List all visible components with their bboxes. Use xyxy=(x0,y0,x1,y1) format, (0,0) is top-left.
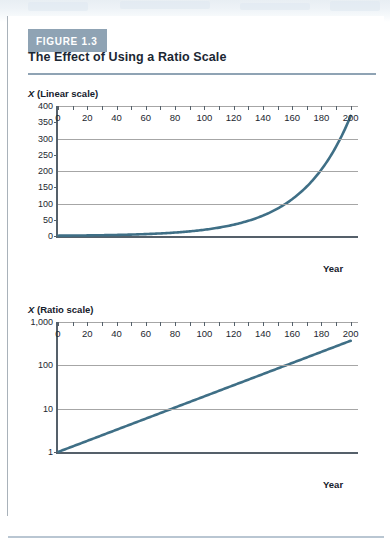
chart-ratio-x-tick xyxy=(73,322,74,326)
chart-linear-x-tick xyxy=(351,106,352,110)
chart-linear-x-tick xyxy=(248,106,249,110)
chart-ratio-x-tick xyxy=(307,322,308,326)
chart-ratio-x-tick xyxy=(321,322,322,326)
chart-ratio-x-axis-title: Year xyxy=(323,479,343,490)
chart-ratio-gridline xyxy=(58,409,358,410)
chart-linear-plot-area: 0501001502002503003504000204060801001201… xyxy=(56,106,358,238)
chart-linear-x-tick xyxy=(58,106,59,110)
chart-ratio-x-tick-label: 140 xyxy=(255,328,271,339)
chart-linear-y-tick xyxy=(54,155,58,156)
chart-ratio-series-curve xyxy=(58,322,358,452)
chart-linear-x-tick xyxy=(307,106,308,110)
chart-linear-y-tick-label: 0 xyxy=(48,231,53,241)
chart-linear-x-tick xyxy=(160,106,161,110)
chart-ratio-x-tick-label: 160 xyxy=(284,328,300,339)
chart-ratio-x-tick-label: 40 xyxy=(111,328,122,339)
chart-ratio-x-tick xyxy=(292,322,293,326)
chart-ratio-scale: X (Ratio scale) 1101001,0000204060801001… xyxy=(8,304,384,504)
chart-ratio-x-tick-label: 100 xyxy=(196,328,212,339)
chart-linear-gridline xyxy=(58,171,358,172)
chart-ratio-x-tick-label: 120 xyxy=(226,328,242,339)
chart-ratio-x-tick xyxy=(248,322,249,326)
chart-ratio-x-tick xyxy=(234,322,235,326)
chart-ratio-x-tick xyxy=(117,322,118,326)
chart-ratio-x-tick xyxy=(263,322,264,326)
chart-linear-x-tick-label: 120 xyxy=(226,112,242,123)
chart-ratio-x-tick-label: 180 xyxy=(313,328,329,339)
chart-ratio-plot-area: 1101001,000020406080100120140160180200 xyxy=(56,322,358,454)
chart-ratio-x-tick xyxy=(58,322,59,326)
chart-ratio-x-tick xyxy=(146,322,147,326)
chart-linear-x-tick-label: 180 xyxy=(313,112,329,123)
page-bottom-rule xyxy=(8,536,384,538)
chart-ratio-caption: X (Ratio scale) xyxy=(28,304,93,315)
chart-ratio-x-tick xyxy=(102,322,103,326)
chart-ratio-y-tick xyxy=(54,452,58,453)
chart-ratio-x-tick xyxy=(219,322,220,326)
chart-linear-x-axis-title: Year xyxy=(323,263,343,274)
chart-linear-x-tick xyxy=(190,106,191,110)
chart-linear-x-tick xyxy=(219,106,220,110)
chart-ratio-x-tick-label: 80 xyxy=(170,328,181,339)
chart-ratio-x-tick xyxy=(131,322,132,326)
chart-linear-x-tick xyxy=(321,106,322,110)
chart-linear-x-tick-label: 100 xyxy=(196,112,212,123)
chart-linear-x-tick xyxy=(263,106,264,110)
chart-linear-y-tick xyxy=(54,220,58,221)
chart-ratio-gridline xyxy=(58,365,358,366)
chart-ratio-x-tick xyxy=(351,322,352,326)
chart-ratio-caption-text: (Ratio scale) xyxy=(34,304,93,315)
figure-title: The Effect of Using a Ratio Scale xyxy=(28,50,226,64)
chart-linear-gridline xyxy=(58,139,358,140)
chart-linear-x-tick-label: 160 xyxy=(284,112,300,123)
chart-ratio-x-tick xyxy=(160,322,161,326)
chart-linear-y-tick xyxy=(54,187,58,188)
chart-linear-x-tick xyxy=(146,106,147,110)
chart-linear-y-tick-label: 50 xyxy=(43,215,53,225)
chart-linear-x-tick xyxy=(175,106,176,110)
chart-linear-x-tick-label: 0 xyxy=(55,112,60,123)
chart-ratio-y-tick-label: 1 xyxy=(48,447,53,457)
chart-linear-x-tick xyxy=(117,106,118,110)
chart-ratio-gridline xyxy=(58,322,358,323)
chart-linear-x-tick xyxy=(292,106,293,110)
chart-linear-x-tick xyxy=(204,106,205,110)
chart-ratio-x-tick-label: 0 xyxy=(55,328,60,339)
chart-linear-y-tick-label: 300 xyxy=(38,134,53,144)
chart-ratio-x-tick xyxy=(87,322,88,326)
chart-linear-caption-text: (Linear scale) xyxy=(34,88,98,99)
chart-linear-x-tick xyxy=(131,106,132,110)
chart-linear-y-tick-label: 250 xyxy=(38,150,53,160)
chart-linear-x-tick-label: 20 xyxy=(82,112,93,123)
chart-ratio-series-line xyxy=(58,341,351,452)
chart-linear-x-tick xyxy=(336,106,337,110)
figure-number-badge: FIGURE 1.3 xyxy=(28,29,107,52)
figure-number-label: FIGURE 1.3 xyxy=(36,36,97,47)
chart-linear-scale: X (Linear scale) 05010015020025030035040… xyxy=(8,88,384,288)
chart-ratio-x-tick xyxy=(278,322,279,326)
chart-linear-x-tick xyxy=(278,106,279,110)
chart-linear-y-tick-label: 100 xyxy=(38,199,53,209)
chart-ratio-x-tick xyxy=(175,322,176,326)
chart-linear-gridline xyxy=(58,106,358,107)
chart-linear-y-tick-label: 200 xyxy=(38,166,53,176)
chart-linear-series-line xyxy=(58,116,351,236)
chart-linear-y-tick-label: 150 xyxy=(38,182,53,192)
figure-card: FIGURE 1.3 The Effect of Using a Ratio S… xyxy=(8,16,384,536)
chart-linear-y-tick-label: 400 xyxy=(38,101,53,111)
chart-ratio-x-tick xyxy=(336,322,337,326)
chart-linear-y-tick xyxy=(54,236,58,237)
chart-linear-x-tick xyxy=(87,106,88,110)
chart-ratio-y-tick-label: 1,000 xyxy=(30,317,53,327)
chart-ratio-y-tick-label: 10 xyxy=(43,404,53,414)
chart-linear-x-tick-label: 60 xyxy=(141,112,152,123)
chart-ratio-x-tick-label: 20 xyxy=(82,328,93,339)
chart-linear-x-tick xyxy=(102,106,103,110)
chart-linear-x-tick-label: 40 xyxy=(111,112,122,123)
chart-linear-x-tick-label: 200 xyxy=(343,112,359,123)
chart-ratio-x-tick-label: 200 xyxy=(343,328,359,339)
chart-linear-x-tick-label: 80 xyxy=(170,112,181,123)
chart-linear-x-tick xyxy=(73,106,74,110)
chart-linear-gridline xyxy=(58,204,358,205)
chart-ratio-x-tick-label: 60 xyxy=(141,328,152,339)
